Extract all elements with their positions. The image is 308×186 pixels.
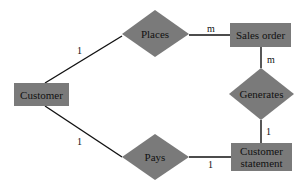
relationship-generates: Generates xyxy=(229,68,294,120)
entity-sales-order-label: Sales order xyxy=(236,29,286,41)
entity-customer-statement-label-line1: Customer xyxy=(240,145,283,157)
entity-customer-label: Customer xyxy=(20,89,63,101)
cardinality-sales-order-generates: m xyxy=(267,54,275,65)
er-diagram: 1 m m 1 1 1 Customer Sales order Custome… xyxy=(0,0,308,186)
relationship-places-label: Places xyxy=(141,28,169,40)
relationship-places: Places xyxy=(122,10,189,57)
cardinality-places-sales-order: m xyxy=(207,23,215,34)
connector-customer-pays xyxy=(45,106,122,157)
entity-sales-order: Sales order xyxy=(230,23,291,47)
entity-customer: Customer xyxy=(14,83,69,106)
relationship-pays-label: Pays xyxy=(145,151,166,163)
relationship-generates-label: Generates xyxy=(240,88,284,100)
entity-customer-statement: Customer statement xyxy=(231,143,292,171)
cardinality-pays-statement: 1 xyxy=(208,159,213,170)
relationship-pays: Pays xyxy=(122,134,189,180)
connector-customer-places xyxy=(45,36,122,83)
cardinality-generates-statement: 1 xyxy=(266,126,271,137)
cardinality-customer-pays: 1 xyxy=(77,136,82,147)
entity-customer-statement-label-line2: statement xyxy=(240,157,282,169)
cardinality-customer-places: 1 xyxy=(77,45,82,56)
